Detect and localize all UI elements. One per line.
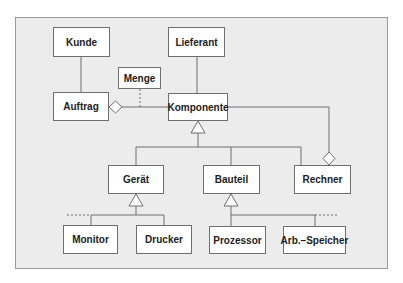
generalization-triangle-komponente (191, 121, 205, 133)
class-auftrag: Auftrag (53, 92, 109, 121)
generalization-triangle-geraet (129, 194, 143, 206)
class-prozessor: Prozessor (209, 226, 266, 254)
class-kunde: Kunde (53, 27, 110, 57)
generalization-triangle-bauteil (224, 194, 238, 206)
aggregation-line-rechner-komponente (228, 107, 329, 152)
class-komponente: Komponente (168, 93, 228, 121)
class-drucker: Drucker (136, 225, 192, 254)
class-menge: Menge (118, 67, 161, 89)
class-monitor: Monitor (63, 225, 118, 254)
aggregation-diamond-rechner (323, 152, 335, 165)
class-rechner: Rechner (294, 165, 351, 194)
aggregation-diamond-auftrag (109, 101, 122, 113)
class-bauteil: Bauteil (203, 165, 260, 194)
class-lieferant: Lieferant (168, 27, 225, 57)
class-arbeitsspeicher: Arb.–Speicher (283, 226, 346, 254)
class-geraet: Gerät (108, 165, 164, 194)
generalization-bus-bauteil (231, 215, 315, 226)
generalization-bus-geraet (91, 215, 164, 225)
generalization-bus-komponente (136, 147, 301, 165)
